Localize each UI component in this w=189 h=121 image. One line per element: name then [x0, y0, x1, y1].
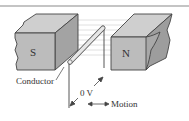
diagram-canvas: S N Conductor 0 V Motion — [0, 0, 189, 121]
south-pole-label: S — [30, 46, 36, 58]
voltage-label: 0 V — [80, 88, 94, 98]
north-pole-label: N — [122, 47, 130, 59]
motion-label: Motion — [111, 99, 138, 109]
north-magnet: N — [111, 14, 172, 70]
conductor-label: Conductor — [16, 76, 54, 86]
motion-arrow-icon — [88, 102, 109, 106]
conductor-pointer-line — [56, 67, 64, 80]
